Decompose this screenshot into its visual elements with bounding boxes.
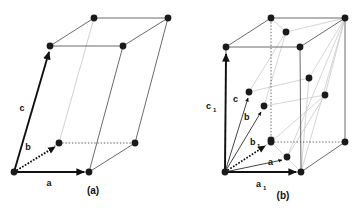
lattice-point [298, 169, 305, 176]
lattice-point [56, 140, 63, 147]
panel-b-caption: (b) [277, 190, 290, 201]
lattice-point [284, 154, 291, 161]
lattice-point [306, 75, 313, 82]
lattice-point [342, 15, 349, 22]
lattice-point [322, 92, 329, 99]
lattice-point [283, 29, 290, 36]
lattice-point [165, 15, 172, 22]
lattice-point [246, 89, 253, 96]
panel-a-caption: (a) [87, 185, 99, 196]
lattice-point [297, 44, 304, 51]
lattice-point [342, 139, 349, 146]
lattice-point [223, 44, 230, 51]
lattice-point [86, 169, 93, 176]
lattice-point [132, 140, 139, 147]
panel-a-label-c: c [19, 103, 24, 113]
figure-root: a b c (a) [0, 0, 361, 212]
lattice-point [222, 169, 229, 176]
panel-b-vector-c1 [225, 54, 226, 172]
lattice-point [268, 137, 275, 144]
lattice-point [47, 43, 54, 50]
panel-b-label-b1-base: b [250, 137, 256, 147]
lattice-point [11, 169, 18, 176]
lattice-point [268, 15, 275, 22]
lattice-point [120, 43, 127, 50]
lattice-point [91, 15, 98, 22]
panel-b-label-b: b [244, 112, 250, 122]
crystal-lattice-figure: a b c (a) [0, 0, 361, 212]
panel-a-label-b: b [25, 142, 31, 152]
panel-b-label-c1-base: c [206, 101, 211, 111]
panel-b-label-c: c [233, 94, 238, 104]
lattice-point [261, 103, 268, 110]
